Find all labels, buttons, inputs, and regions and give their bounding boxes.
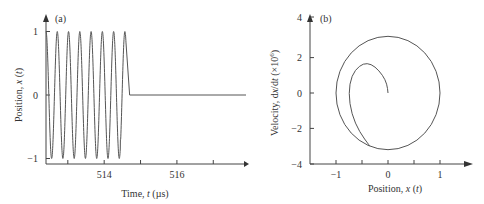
y-tick-label: 2 <box>297 52 302 63</box>
y-axis-arrow-icon <box>43 14 49 22</box>
y-tick-label: 1 <box>33 26 38 37</box>
panel-b-y-axis-title: Velocity, dx/dt (×106) <box>268 50 281 136</box>
panel-a-ticks: 51451610−1 <box>27 26 213 180</box>
y-axis-arrow-icon <box>307 14 313 22</box>
x-axis-arrow-icon <box>464 161 473 167</box>
x-tick-label: 0 <box>386 169 391 180</box>
y-tick-label: −1 <box>27 153 38 164</box>
y-tick-label: 4 <box>297 12 302 23</box>
panel-b-ticks: −101420−2−4 <box>291 12 442 181</box>
panel-b-x-axis-title: Position, x (t) <box>368 183 422 195</box>
y-tick-label: 0 <box>297 88 302 99</box>
y-tick-label: 0 <box>33 90 38 101</box>
x-tick-label: 514 <box>97 169 112 180</box>
x-tick-label: 516 <box>169 169 184 180</box>
position-curve <box>46 32 246 159</box>
panel-a-label: (a) <box>55 13 66 25</box>
panel-a-time-series: 51451610−1 (a) Time, t (µs) Position, x … <box>13 13 249 200</box>
x-axis-arrow-icon <box>244 161 249 167</box>
y-tick-label: −4 <box>291 159 302 170</box>
x-tick-label: −1 <box>331 169 342 180</box>
y-tick-label: −2 <box>291 123 302 134</box>
panel-a-y-axis-title: Position, x (t) <box>13 68 25 122</box>
panel-b-axes <box>307 14 473 167</box>
transient-curve <box>349 64 388 146</box>
panel-a-x-axis-title: Time, t (µs) <box>121 188 168 200</box>
panel-b-phase-portrait: −101420−2−4 (b) Position, x (t) Velocity… <box>268 12 473 196</box>
panel-b-label: (b) <box>320 13 332 25</box>
panel-a-axes <box>43 14 249 167</box>
x-tick-label: 1 <box>438 169 443 180</box>
figure: 51451610−1 (a) Time, t (µs) Position, x … <box>0 0 484 204</box>
